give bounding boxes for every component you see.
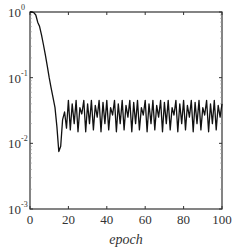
y-tick-exponent: -1: [21, 69, 28, 78]
x-tick-label: 40: [100, 212, 113, 227]
y-tick-label: 10: [8, 136, 21, 151]
y-tick-exponent: -3: [21, 200, 28, 209]
y-tick-label: 10: [8, 202, 21, 217]
loss-chart: 10010-110-210-3 020406080100 epoch: [0, 0, 238, 250]
y-tick-exponent: -2: [21, 134, 28, 143]
x-axis-label: epoch: [109, 232, 142, 247]
y-tick-label: 10: [8, 71, 21, 86]
x-axis-ticks: 020406080100: [27, 12, 232, 227]
x-tick-label: 100: [212, 212, 232, 227]
y-tick-label: 10: [8, 5, 21, 20]
y-tick-exponent: 0: [21, 3, 25, 12]
x-tick-label: 20: [62, 212, 75, 227]
x-tick-label: 0: [27, 212, 34, 227]
x-tick-label: 80: [177, 212, 190, 227]
loss-line: [30, 12, 222, 152]
x-tick-label: 60: [139, 212, 152, 227]
